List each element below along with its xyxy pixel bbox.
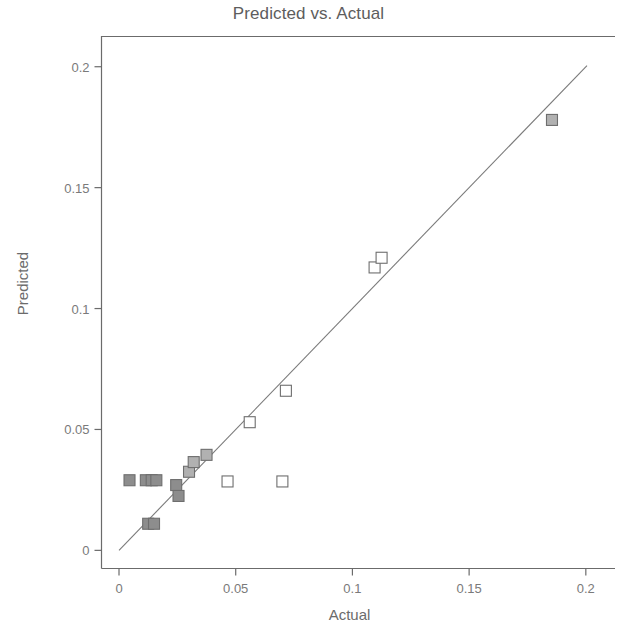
scatter-point [244, 417, 255, 428]
x-tick-label: 0.1 [343, 581, 361, 596]
plot-area [0, 0, 617, 640]
scatter-markers [124, 114, 557, 529]
x-tick-label: 0 [115, 581, 122, 596]
scatter-point [151, 475, 162, 486]
x-tick-label: 0.2 [577, 581, 595, 596]
scatter-point [222, 476, 233, 487]
scatter-point [149, 518, 160, 529]
scatter-point [277, 476, 288, 487]
scatter-point [546, 114, 557, 125]
predicted-vs-actual-chart: Predicted vs. Actual Predicted Actual 00… [0, 0, 617, 640]
scatter-point [376, 252, 387, 263]
scatter-point [201, 449, 212, 460]
scatter-point [124, 475, 135, 486]
scatter-point [188, 457, 199, 468]
scatter-point [280, 385, 291, 396]
y-tick-label: 0.2 [71, 59, 89, 74]
scatter-point [173, 490, 184, 501]
y-tick-label: 0.1 [71, 301, 89, 316]
x-tick-label: 0.05 [223, 581, 248, 596]
y-tick-label: 0 [82, 543, 89, 558]
y-tick-label: 0.15 [64, 180, 89, 195]
x-tick-label: 0.15 [456, 581, 481, 596]
scatter-point [171, 480, 182, 491]
y-tick-label: 0.05 [64, 422, 89, 437]
